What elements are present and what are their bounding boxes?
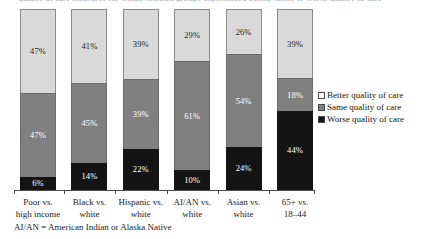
axis-tick-4 xyxy=(167,190,168,194)
bar-segment-value-label: 54% xyxy=(236,97,252,106)
bar-segment-better[interactable]: 39% xyxy=(277,9,313,79)
legend-item-worse[interactable]: Worse quality of care xyxy=(318,113,424,125)
bar-segment-value-label: 14% xyxy=(81,172,97,181)
legend-label-same: Same quality of care xyxy=(327,102,401,113)
bar-segment-better[interactable]: 29% xyxy=(174,9,210,62)
bar-segment-value-label: 18% xyxy=(287,91,303,100)
bar-segment-value-label: 22% xyxy=(133,165,149,174)
axis-tick-1 xyxy=(14,190,15,194)
axis-tick-6 xyxy=(269,190,270,194)
chart-legend: Better quality of care Same quality of c… xyxy=(318,89,424,125)
bar-segment-value-label: 39% xyxy=(133,110,149,119)
legend-swatch-worse-icon xyxy=(318,116,325,123)
chart-footnote: AI/AN = American Indian or Alaska Native xyxy=(14,222,172,233)
category-label-6: 65+ vs.18–44 xyxy=(263,197,327,220)
bar-segment-same[interactable]: 47% xyxy=(20,93,56,178)
bar-segment-same[interactable]: 18% xyxy=(277,78,313,112)
legend-swatch-better-icon xyxy=(318,92,325,99)
bar-segment-same[interactable]: 61% xyxy=(174,61,210,171)
bar-segment-value-label: 24% xyxy=(236,164,252,173)
bar-segment-value-label: 41% xyxy=(81,42,97,51)
bar-segment-value-label: 47% xyxy=(30,47,46,56)
bar-segment-better[interactable]: 47% xyxy=(20,9,56,94)
bar-3: 39%39%22% xyxy=(123,9,159,190)
axis-tick-7 xyxy=(314,190,315,194)
bar-5: 26%54%24% xyxy=(226,9,262,190)
category-label-line: 65+ vs. xyxy=(263,197,327,209)
axis-tick-5 xyxy=(218,190,219,194)
bar-segment-value-label: 47% xyxy=(30,131,46,140)
bar-segment-value-label: 6% xyxy=(32,179,44,188)
bar-segment-value-label: 61% xyxy=(184,112,200,121)
legend-item-better[interactable]: Better quality of care xyxy=(318,89,424,101)
bar-segment-worse[interactable]: 10% xyxy=(174,170,210,190)
bar-segment-worse[interactable]: 6% xyxy=(20,177,56,190)
bar-segment-value-label: 26% xyxy=(236,28,252,37)
bar-6: 39%18%44% xyxy=(277,9,313,190)
bar-segment-value-label: 39% xyxy=(287,40,303,49)
stacked-bar-chart: 47%47%6%41%45%14%39%39%22%29%61%10%26%54… xyxy=(0,0,426,239)
legend-swatch-same-icon xyxy=(318,104,325,111)
category-label-line: 18–44 xyxy=(263,209,327,221)
axis-tick-2 xyxy=(64,190,65,194)
bar-segment-worse[interactable]: 14% xyxy=(71,163,107,190)
bar-segment-better[interactable]: 26% xyxy=(226,9,262,55)
legend-label-better: Better quality of care xyxy=(327,90,403,101)
bar-segment-value-label: 39% xyxy=(133,40,149,49)
bar-4: 29%61%10% xyxy=(174,9,210,190)
bar-segment-worse[interactable]: 22% xyxy=(123,149,159,190)
bar-segment-worse[interactable]: 44% xyxy=(277,111,313,190)
bar-segment-value-label: 44% xyxy=(287,146,303,155)
bar-segment-worse[interactable]: 24% xyxy=(226,147,262,190)
bar-1: 47%47%6% xyxy=(20,9,56,190)
bar-segment-same[interactable]: 39% xyxy=(123,79,159,150)
bar-segment-better[interactable]: 39% xyxy=(123,9,159,80)
bar-segment-value-label: 45% xyxy=(81,119,97,128)
bar-segment-same[interactable]: 54% xyxy=(226,54,262,148)
axis-tick-3 xyxy=(115,190,116,194)
bar-segment-value-label: 10% xyxy=(184,176,200,185)
legend-item-same[interactable]: Same quality of care xyxy=(318,101,424,113)
bar-2: 41%45%14% xyxy=(71,9,107,190)
bar-segment-better[interactable]: 41% xyxy=(71,9,107,84)
legend-label-worse: Worse quality of care xyxy=(327,114,404,125)
bar-segment-same[interactable]: 45% xyxy=(71,83,107,165)
bar-segment-value-label: 29% xyxy=(184,31,200,40)
